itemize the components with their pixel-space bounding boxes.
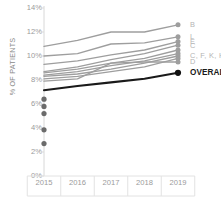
chart-canvas (0, 0, 221, 201)
scatter-point (41, 111, 46, 116)
legend-entry-d: D (190, 57, 196, 66)
series-line (44, 25, 178, 47)
series-endpoint (176, 43, 181, 48)
series-endpoint (176, 22, 181, 27)
x-axis-tick-label: 2018 (128, 178, 162, 187)
line-chart: % OF PATIENTS 0%2%4%6%8%10%12%14% 201520… (0, 0, 221, 201)
x-axis-tick-label: 2016 (61, 178, 95, 187)
legend-entry-c: C (190, 41, 196, 50)
legend-entry-overall: OVERALL (190, 68, 221, 77)
legend-entry-b: B (190, 20, 195, 29)
scatter-point (41, 104, 46, 109)
scatter-point (41, 97, 46, 102)
series-endpoint (176, 34, 181, 39)
scatter-point (41, 127, 46, 132)
x-axis-tick-label: 2015 (27, 178, 61, 187)
series-endpoint-overall (175, 70, 181, 76)
series-endpoint (176, 60, 181, 65)
x-axis-tick-label: 2017 (94, 178, 128, 187)
scatter-point (41, 141, 46, 146)
x-axis-tick-label: 2019 (161, 178, 195, 187)
